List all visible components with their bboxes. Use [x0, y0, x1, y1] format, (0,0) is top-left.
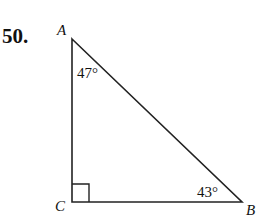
vertex-label-a: A: [57, 22, 66, 39]
triangle-diagram: [0, 0, 270, 223]
angle-b-label: 43°: [197, 184, 218, 201]
angle-a-label: 47°: [77, 65, 98, 82]
triangle-abc: [72, 39, 242, 202]
vertex-label-c: C: [55, 198, 65, 215]
vertex-label-b: B: [246, 202, 255, 219]
right-angle-marker: [72, 184, 89, 202]
